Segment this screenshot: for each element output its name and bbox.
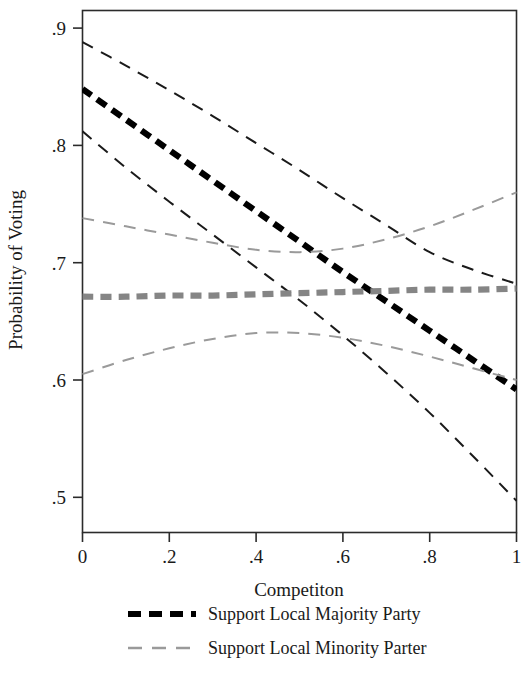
x-tick-label: .8 <box>423 546 437 567</box>
x-axis-tick-labels: 0.2.4.6.81 <box>78 546 522 567</box>
y-axis-title: Probability of Voting <box>5 190 26 350</box>
chart-figure: .9.8.7.6.5 0.2.4.6.81 Competiton Probabi… <box>0 0 531 674</box>
x-tick-label: .2 <box>162 546 176 567</box>
x-axis-ticks <box>83 533 517 543</box>
chart-legend: Support Local Majority PartySupport Loca… <box>128 604 426 658</box>
y-tick-label: .9 <box>52 18 66 39</box>
series-estimate-line <box>83 289 517 297</box>
y-tick-label: .5 <box>52 487 66 508</box>
y-tick-label: .7 <box>52 253 66 274</box>
series-lower-ci-line <box>83 332 517 380</box>
y-tick-label: .6 <box>52 370 66 391</box>
series-upper-ci-line <box>83 192 517 252</box>
y-axis-tick-labels: .9.8.7.6.5 <box>52 18 66 508</box>
series-estimate-line <box>83 89 517 389</box>
x-tick-label: .6 <box>336 546 350 567</box>
plot-area-frame <box>83 11 517 533</box>
y-tick-label: .8 <box>52 135 66 156</box>
series-upper-ci-line <box>83 42 517 284</box>
y-axis-ticks <box>73 28 83 497</box>
x-tick-label: 1 <box>512 546 522 567</box>
series-lower-ci-line <box>83 131 517 501</box>
x-tick-label: .4 <box>249 546 264 567</box>
x-tick-label: 0 <box>78 546 88 567</box>
x-axis-title: Competiton <box>254 579 344 600</box>
data-series-group <box>83 42 517 501</box>
legend-label-majority: Support Local Majority Party <box>208 604 420 624</box>
legend-label-minority: Support Local Minority Parter <box>208 638 426 658</box>
probability-of-voting-chart: .9.8.7.6.5 0.2.4.6.81 Competiton Probabi… <box>0 0 531 674</box>
